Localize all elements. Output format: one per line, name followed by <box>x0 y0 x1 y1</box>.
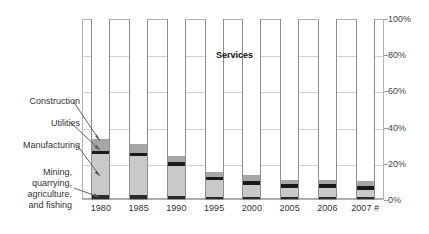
xtick-label: 1985 <box>120 203 158 213</box>
bar-stack[interactable] <box>242 19 261 200</box>
bar-segment-manufacturing[interactable] <box>168 166 185 197</box>
bar-column[interactable] <box>280 19 299 200</box>
callout-label-utilities: Utilities <box>8 118 80 129</box>
bar-segment-manufacturing[interactable] <box>130 156 147 195</box>
bar-segment-mining[interactable] <box>281 197 298 199</box>
bar-segment-utilities[interactable] <box>319 184 336 188</box>
bar-column[interactable] <box>242 19 261 200</box>
bar-stack[interactable] <box>129 19 148 200</box>
bar-column[interactable] <box>318 19 337 200</box>
bar-column[interactable] <box>129 19 148 200</box>
bar-segment-manufacturing[interactable] <box>357 190 374 198</box>
bar-segment-construction[interactable] <box>319 180 336 184</box>
bar-column[interactable] <box>356 19 375 200</box>
xtick-label: 2006 <box>309 203 347 213</box>
bar-segment-utilities[interactable] <box>92 151 109 154</box>
bar-segment-utilities[interactable] <box>243 181 260 185</box>
callout-label-mining-4: and fishing <box>8 200 72 211</box>
bar-segment-mining[interactable] <box>130 195 147 199</box>
bar-segment-mining[interactable] <box>357 197 374 199</box>
bar-segment-services[interactable] <box>243 18 260 175</box>
bar-stack[interactable] <box>167 19 186 200</box>
xtick-label: 1995 <box>195 203 233 213</box>
callout-label-manufacturing: Manufacturing <box>2 140 80 151</box>
bars-layer <box>82 19 384 200</box>
bar-segment-utilities[interactable] <box>357 186 374 190</box>
bar-segment-services[interactable] <box>206 18 223 172</box>
bar-segment-mining[interactable] <box>319 197 336 199</box>
bar-segment-services[interactable] <box>130 18 147 144</box>
ytick-label-20: 20% <box>388 160 406 169</box>
xtick-label: 2005 <box>271 203 309 213</box>
bar-segment-mining[interactable] <box>206 197 223 199</box>
bar-segment-construction[interactable] <box>168 156 185 162</box>
xtick-label: 1990 <box>158 203 196 213</box>
bar-segment-construction[interactable] <box>92 139 109 150</box>
ytick-label-60: 60% <box>388 87 406 96</box>
bar-segment-construction[interactable] <box>206 172 223 176</box>
bar-segment-services[interactable] <box>92 18 109 139</box>
bar-stack[interactable] <box>280 19 299 200</box>
callout-label-construction: Construction <box>8 96 80 107</box>
bar-segment-mining[interactable] <box>243 197 260 199</box>
xtick-label: 1980 <box>82 203 120 213</box>
bar-stack[interactable] <box>205 19 224 200</box>
callout-label-mining-3: agriculture, <box>8 189 72 200</box>
bar-segment-construction[interactable] <box>357 181 374 186</box>
bar-segment-services[interactable] <box>319 18 336 180</box>
xtick-label: 2007 # <box>346 203 384 213</box>
ytick-label-100: 100% <box>388 15 411 24</box>
callout-label-mining-1: Mining, <box>8 167 72 178</box>
bar-segment-construction[interactable] <box>130 144 147 153</box>
bar-segment-utilities[interactable] <box>168 162 185 165</box>
bar-segment-utilities[interactable] <box>206 177 223 180</box>
bar-segment-utilities[interactable] <box>130 153 147 156</box>
ytick-label-80: 80% <box>388 51 406 60</box>
bar-stack[interactable] <box>356 19 375 200</box>
bar-segment-manufacturing[interactable] <box>206 180 223 197</box>
bar-segment-services[interactable] <box>357 18 374 181</box>
bar-column[interactable] <box>167 19 186 200</box>
bar-column[interactable] <box>91 19 110 200</box>
bar-stack[interactable] <box>91 19 110 200</box>
bar-segment-mining[interactable] <box>92 195 109 199</box>
bar-segment-manufacturing[interactable] <box>319 188 336 197</box>
bar-stack[interactable] <box>318 19 337 200</box>
bar-segment-construction[interactable] <box>243 175 260 181</box>
bar-segment-services[interactable] <box>281 18 298 180</box>
bar-segment-construction[interactable] <box>281 180 298 184</box>
ytick-label-0: 0% <box>388 196 401 205</box>
series-label-services: Services <box>216 50 253 60</box>
bar-segment-manufacturing[interactable] <box>92 154 109 195</box>
callout-label-mining-2: quarrying, <box>8 178 72 189</box>
bar-column[interactable] <box>205 19 224 200</box>
bar-segment-manufacturing[interactable] <box>281 188 298 197</box>
bar-segment-services[interactable] <box>168 18 185 156</box>
bar-segment-manufacturing[interactable] <box>243 185 260 197</box>
bar-segment-mining[interactable] <box>168 196 185 199</box>
stacked-bar-chart: 100% 80% 60% 40% 20% 0% 1980198519901995… <box>0 0 429 234</box>
bar-segment-utilities[interactable] <box>281 184 298 188</box>
ytick-label-40: 40% <box>388 124 406 133</box>
xtick-label: 2000 <box>233 203 271 213</box>
